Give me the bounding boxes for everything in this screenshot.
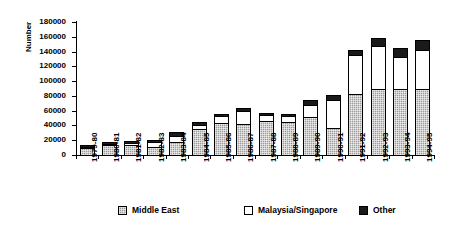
x-tick-label: 1993-94 (404, 133, 412, 162)
legend-label-middle-east: Middle East (132, 205, 179, 215)
legend-swatch-other (359, 206, 368, 215)
chart-legend: Middle East Malaysia/Singapore Other (76, 203, 416, 217)
legend-item-malaysia-singapore: Malaysia/Singapore (244, 205, 337, 215)
x-tick-label: 1986-87 (247, 133, 255, 162)
legend-swatch-malaysia-singapore (244, 206, 253, 215)
x-tick-label: 1983-84 (180, 133, 188, 162)
x-tick-label: 1990-91 (337, 133, 345, 162)
x-tick-label: 1981-82 (135, 133, 143, 162)
x-tick-label: 1991-92 (359, 133, 367, 162)
legend-label-malaysia-singapore: Malaysia/Singapore (258, 205, 337, 215)
x-tick-label: 1992-93 (382, 133, 390, 162)
x-tick-label: 1979-80 (91, 133, 99, 162)
x-tick-label: 1980-81 (113, 133, 121, 162)
bar-chart: Number 020000400006000080000100000120000… (0, 0, 449, 228)
x-tick-label: 1994-95 (426, 133, 434, 162)
x-tick-label: 1988-89 (292, 133, 300, 162)
legend-item-other: Other (359, 205, 396, 215)
legend-swatch-middle-east (118, 206, 127, 215)
x-tick-label: 1982-83 (158, 133, 166, 162)
x-axis-tick-labels: 1979-801980-811981-821982-831983-841984-… (0, 0, 449, 228)
x-tick-label: 1984-85 (203, 133, 211, 162)
x-tick-label: 1987-88 (270, 133, 278, 162)
legend-item-middle-east: Middle East (118, 205, 179, 215)
legend-label-other: Other (373, 205, 396, 215)
x-tick-label: 1985-86 (225, 133, 233, 162)
x-tick-label: 1989-90 (314, 133, 322, 162)
